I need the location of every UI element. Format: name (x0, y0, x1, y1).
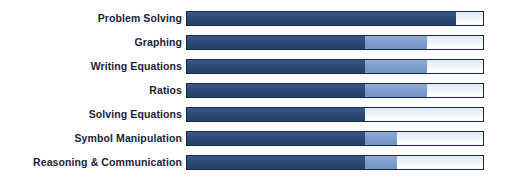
chart-row: Ratios (0, 83, 515, 98)
bar-segment-light (427, 60, 483, 73)
bar-segment-dark (187, 156, 365, 169)
bar-segment-medium (365, 36, 427, 49)
bar-segment-light (427, 84, 483, 97)
chart-row: Graphing (0, 35, 515, 50)
bar-track (186, 107, 484, 122)
bar-segment-light (365, 108, 483, 121)
bar-segment-medium (365, 84, 427, 97)
category-label: Symbol Manipulation (75, 131, 182, 146)
bar-segment-light (397, 132, 483, 145)
bar-segment-light (456, 12, 483, 25)
bar-segment-medium (365, 156, 398, 169)
bar-segment-dark (187, 84, 365, 97)
bar-segment-dark (187, 132, 365, 145)
bar-segment-medium (365, 132, 398, 145)
bar-segment-light (427, 36, 483, 49)
bar-segment-dark (187, 12, 456, 25)
bar-segment-dark (187, 108, 365, 121)
bar-track (186, 35, 484, 50)
chart-row: Problem Solving (0, 11, 515, 26)
chart-row: Solving Equations (0, 107, 515, 122)
category-label: Solving Equations (89, 107, 182, 122)
bar-segment-medium (365, 60, 427, 73)
bar-segment-dark (187, 60, 365, 73)
chart-row: Symbol Manipulation (0, 131, 515, 146)
category-label: Writing Equations (91, 59, 182, 74)
category-label: Graphing (135, 35, 182, 50)
bar-segment-light (397, 156, 483, 169)
category-label: Problem Solving (98, 11, 182, 26)
chart-row: Writing Equations (0, 59, 515, 74)
category-label: Ratios (149, 83, 182, 98)
bar-track (186, 131, 484, 146)
bar-track (186, 59, 484, 74)
category-label: Reasoning & Communication (33, 155, 182, 170)
bar-track (186, 11, 484, 26)
bar-track (186, 155, 484, 170)
bar-track (186, 83, 484, 98)
stacked-bar-chart: Problem SolvingGraphingWriting Equations… (0, 0, 515, 190)
chart-row: Reasoning & Communication (0, 155, 515, 170)
bar-segment-dark (187, 36, 365, 49)
